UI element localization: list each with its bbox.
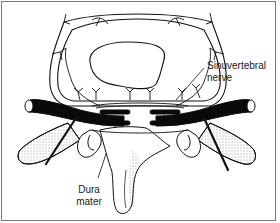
nerve-branches bbox=[52, 13, 224, 106]
spinous-process bbox=[100, 127, 170, 214]
vertebra-diagram bbox=[0, 0, 280, 223]
spinal-nerves bbox=[25, 100, 255, 126]
label-sinuvertebral-nerve: Sinuvertebral nerve bbox=[207, 60, 266, 83]
vertebral-body bbox=[50, 14, 227, 106]
label-dura-mater: Dura mater bbox=[74, 184, 104, 207]
